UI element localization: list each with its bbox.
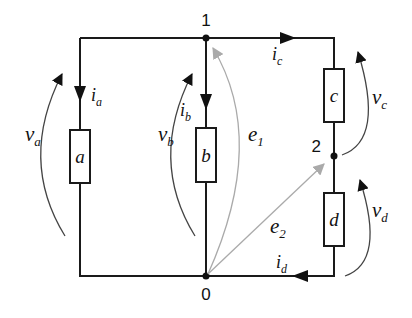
node-2-label: 2 — [312, 137, 321, 156]
resistor-a-label: a — [75, 146, 85, 167]
wire-d-bottom — [206, 246, 334, 276]
node-0-label: 0 — [201, 285, 210, 304]
current-arrow-b-icon — [200, 94, 212, 110]
current-label-b: ib — [180, 100, 191, 124]
current-label-a: ia — [91, 85, 102, 109]
circuit-diagram: a b c d 1 0 2 ia ib ic id va vb vc vd e1… — [0, 0, 412, 318]
voltage-arrow-d-icon — [345, 180, 370, 276]
voltage-arrow-b-icon — [171, 74, 195, 236]
current-label-d: id — [276, 252, 288, 276]
voltage-label-a: va — [25, 122, 41, 149]
current-label-c: ic — [272, 44, 283, 68]
current-arrow-a-icon — [74, 86, 86, 102]
voltage-label-d: vd — [372, 198, 388, 225]
voltage-arrow-a-icon — [41, 74, 65, 236]
potential-label-e1: e1 — [248, 122, 264, 149]
voltage-arrow-c-icon — [342, 52, 368, 155]
current-arrow-c-icon — [280, 32, 296, 44]
potential-label-e2: e2 — [270, 214, 286, 241]
resistor-b-label: b — [201, 145, 211, 166]
node-2-dot — [331, 153, 338, 160]
wire-a-bottom — [80, 183, 206, 276]
current-arrow-d-icon — [292, 270, 308, 282]
resistor-d-label: d — [329, 209, 339, 230]
voltage-label-b: vb — [158, 122, 174, 149]
node-1-dot — [203, 35, 210, 42]
resistor-c-label: c — [330, 85, 339, 106]
voltage-label-c: vc — [372, 85, 387, 112]
potential-arrow-e2-icon — [208, 164, 324, 274]
node-1-label: 1 — [201, 11, 210, 30]
